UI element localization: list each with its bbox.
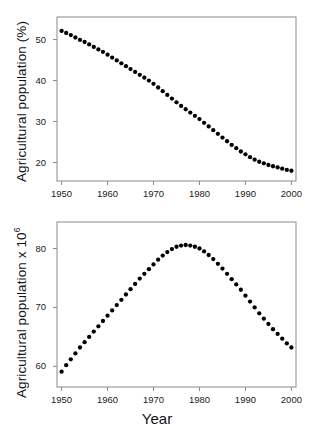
scatter-plot-bottom — [0, 214, 314, 443]
chart-panel-top: Agricultural population (%) 50 40 30 20 … — [0, 0, 314, 214]
figure-container: Agricultural population (%) 50 40 30 20 … — [0, 0, 314, 443]
scatter-plot-top — [0, 0, 314, 214]
chart-panel-bottom: Agricultural population x 106 80 70 60 1… — [0, 214, 314, 443]
